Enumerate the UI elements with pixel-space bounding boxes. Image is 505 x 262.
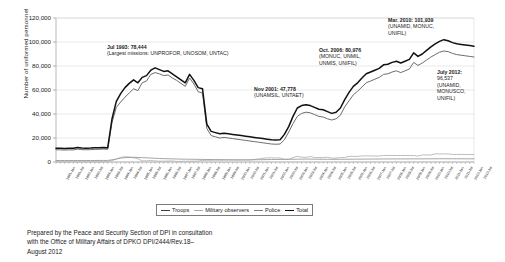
annotation-detail: MONUSCO, (437, 88, 466, 94)
footer-credit: Prepared by the Peace and Security Secti… (27, 228, 212, 256)
legend-label: Police (265, 207, 280, 213)
annotation-detail: UNMIS, UNIFIL) (319, 60, 361, 66)
legend-swatch-icon (161, 210, 170, 211)
series-line-police (56, 154, 474, 162)
chart-container: Number of uniformed personnel 020,00040,… (0, 0, 505, 220)
chart-page: Number of uniformed personnel 020,00040,… (0, 0, 505, 262)
legend-label: Troops (172, 207, 189, 213)
chart-legend: TroopsMilitary observersPoliceTotal (156, 204, 313, 216)
data-series-group (56, 40, 474, 162)
legend-item-police[interactable]: Police (254, 207, 280, 213)
annotation-jul-2012: July 2012:96,537(UNAMID,MONUSCO,UNIFIL) (437, 69, 466, 101)
legend-label: Military observers (205, 207, 249, 213)
legend-swatch-icon (254, 210, 263, 211)
annotation-jul-1993: Jul 1993: 78,444(Largest missions: UNPRO… (107, 44, 229, 57)
annotation-detail: UNIFIL) (437, 95, 466, 101)
legend-swatch-icon (194, 210, 203, 211)
legend-swatch-icon (285, 210, 294, 211)
legend-item-military-observers[interactable]: Military observers (194, 207, 249, 213)
legend-item-total[interactable]: Total (285, 207, 308, 213)
annotation-mar-2010: Mar. 2010: 101,939(UNAMID, MONUC,UNIFIL) (388, 17, 434, 36)
legend-item-troops[interactable]: Troops (161, 207, 189, 213)
annotation-detail: (MONUC, UNMIL, (319, 53, 361, 59)
annotation-detail: (UNAMID, MONUC, (388, 23, 434, 29)
annotation-detail: (Largest missions: UNPROFOR, UNOSOM, UNT… (107, 50, 229, 56)
annotation-nov-2001: Nov 2001: 47,778(UNAMSIL, UNTAET) (254, 86, 304, 99)
annotation-oct-2006: Oct. 2006: 80,976(MONUC, UNMIL,UNMIS, UN… (319, 47, 361, 66)
annotation-detail: UNIFIL) (388, 30, 434, 36)
legend-label: Total (296, 207, 308, 213)
annotation-detail: (UNAMSIL, UNTAET) (254, 92, 304, 98)
